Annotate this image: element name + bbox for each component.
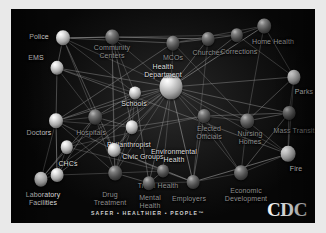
network-node-schools[interactable] <box>129 86 141 99</box>
node-label-doctors: Doctors <box>27 129 52 137</box>
network-node-electedoff[interactable] <box>198 109 211 123</box>
node-label-electedoff: Elected Officials <box>196 125 222 141</box>
network-node-labfacilities[interactable] <box>34 172 47 187</box>
tagline: SAFER • HEALTHIER • PEOPLE™ <box>91 210 205 216</box>
network-node-envhealth[interactable] <box>61 140 73 154</box>
node-label-mentalhealth: Mental Health <box>139 194 161 210</box>
node-label-corrections: Corrections <box>221 48 258 56</box>
node-label-mcos: MCOs <box>163 54 183 62</box>
network-node-philanthropist[interactable] <box>126 120 138 134</box>
node-label-parks: Parks <box>295 88 313 96</box>
network-node-mcos[interactable] <box>166 36 179 51</box>
node-label-nursinghomes: Nursing Homes <box>238 130 263 146</box>
node-label-hospitals: Hospitals <box>76 129 106 137</box>
node-label-chcs: CHCs <box>58 160 77 168</box>
network-node-parks[interactable] <box>287 70 300 85</box>
node-label-drugtreatment: Drug Treatment <box>94 191 127 207</box>
node-label-schools: Schools <box>121 100 147 108</box>
network-node-drugtreatment[interactable] <box>108 166 122 181</box>
node-label-employers: Employers <box>172 195 206 203</box>
network-node-ems[interactable] <box>51 61 64 75</box>
network-node-healthdept[interactable] <box>160 74 183 99</box>
node-label-envhealth: Environmental Health <box>151 148 197 164</box>
node-label-police: Police <box>29 33 49 41</box>
network-node-community[interactable] <box>105 30 119 45</box>
network-node-chcs[interactable] <box>51 168 64 182</box>
node-label-econdev: Economic Development <box>225 187 267 203</box>
network-node-tribalhealth[interactable] <box>157 164 169 177</box>
network-node-econdev[interactable] <box>234 165 248 180</box>
node-label-community: Community Centers <box>94 44 130 60</box>
node-label-masstransit: Mass Transit <box>274 127 315 135</box>
node-label-civicgroups: Civic Groups <box>122 153 163 161</box>
network-node-churches[interactable] <box>202 32 215 46</box>
network-node-employers[interactable] <box>187 175 200 189</box>
network-node-hospitals[interactable] <box>88 110 102 125</box>
node-label-ems: EMS <box>28 54 43 62</box>
network-node-nursinghomes[interactable] <box>240 114 254 129</box>
node-label-homehealth: Home Health <box>252 38 294 46</box>
network-node-fire[interactable] <box>281 146 296 162</box>
network-node-doctors[interactable] <box>49 113 63 128</box>
node-label-fire: Fire <box>290 165 302 173</box>
network-node-civicgroups[interactable] <box>108 143 121 157</box>
cdc-logo: CDC <box>267 200 307 219</box>
node-label-labfacilities: Laboratory Facilities <box>26 191 60 207</box>
node-label-churches: Churches <box>193 49 224 57</box>
network-node-corrections[interactable] <box>231 28 243 42</box>
cdc-public-health-system-poster: PoliceEMSCommunity CentersMCOsChurchesCo… <box>0 0 326 233</box>
network-node-police[interactable] <box>56 30 70 45</box>
network-nodes-layer: PoliceEMSCommunity CentersMCOsChurchesCo… <box>11 9 315 223</box>
network-node-mentalhealth[interactable] <box>143 176 155 190</box>
network-node-masstransit[interactable] <box>283 106 296 120</box>
network-diagram-board: PoliceEMSCommunity CentersMCOsChurchesCo… <box>11 9 315 223</box>
network-node-homehealth[interactable] <box>257 19 271 34</box>
